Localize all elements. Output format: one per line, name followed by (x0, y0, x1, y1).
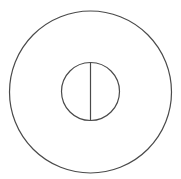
diagram-canvas (0, 0, 181, 179)
concentric-circles-diagram (0, 0, 181, 179)
